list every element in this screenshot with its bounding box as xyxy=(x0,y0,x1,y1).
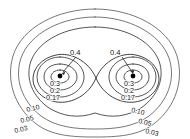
peak-marker-left xyxy=(58,74,63,79)
contour-label-peak-right: 0.4 xyxy=(110,48,121,57)
peak-marker-right xyxy=(131,74,136,79)
contour-plot-canvas: 0.4 0.4 0.3 0.2 0.17 0.3 0.2 0.17 0.10 0… xyxy=(0,0,190,139)
contour-label-left-0.17: 0.17 xyxy=(46,93,60,102)
maximum-dot-icon xyxy=(58,74,63,79)
contour-plot-figure: 0.4 0.4 0.3 0.2 0.17 0.3 0.2 0.17 0.10 0… xyxy=(0,0,190,139)
maximum-dot-icon xyxy=(131,74,136,79)
contour-label-right-0.17: 0.17 xyxy=(121,93,135,102)
contour-label-peak-left: 0.4 xyxy=(70,48,81,57)
